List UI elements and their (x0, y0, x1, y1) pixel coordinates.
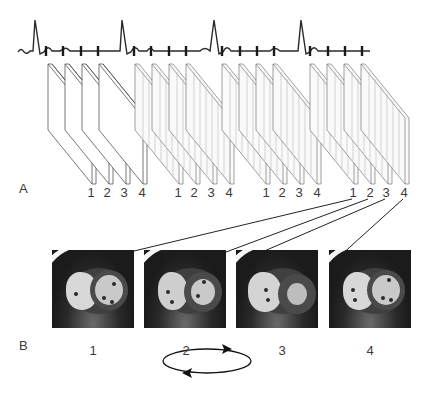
stack-4-label-4: 4 (398, 185, 410, 200)
stack-1-label-2: 2 (101, 185, 113, 200)
stack-1-label-3: 3 (118, 185, 130, 200)
stack-4-label-1: 1 (347, 185, 359, 200)
ecg-trace (18, 20, 370, 54)
circular-arrows-loop-icon (163, 344, 251, 378)
stack-3-label-2: 2 (276, 185, 288, 200)
mri-image-2 (144, 250, 226, 328)
image-caption-1: 1 (87, 343, 99, 358)
mri-image-3 (236, 250, 318, 328)
stack-3-label-3: 3 (293, 185, 305, 200)
stack-2-label-3: 3 (205, 185, 217, 200)
image-caption-4: 4 (364, 343, 376, 358)
slice-stack-4 (310, 64, 409, 184)
slice-stack-2 (135, 64, 234, 184)
stack-1-label-1: 1 (85, 185, 97, 200)
mri-image-4 (329, 250, 411, 328)
stack-1-label-4: 4 (136, 185, 148, 200)
stack-3-label-4: 4 (311, 185, 323, 200)
slice-stack-3 (222, 64, 321, 184)
slice-stack-1 (48, 64, 147, 184)
panel-b-label: B (19, 338, 28, 353)
stack-3-label-1: 1 (260, 185, 272, 200)
image-caption-3: 3 (276, 343, 288, 358)
image-caption-2: 2 (180, 343, 192, 358)
stack-2-label-1: 1 (172, 185, 184, 200)
mri-image-1 (52, 250, 134, 328)
panel-a-label: A (19, 181, 28, 196)
stack-2-label-4: 4 (223, 185, 235, 200)
stack-2-label-2: 2 (188, 185, 200, 200)
stack-4-label-2: 2 (364, 185, 376, 200)
stack-4-label-3: 3 (380, 185, 392, 200)
